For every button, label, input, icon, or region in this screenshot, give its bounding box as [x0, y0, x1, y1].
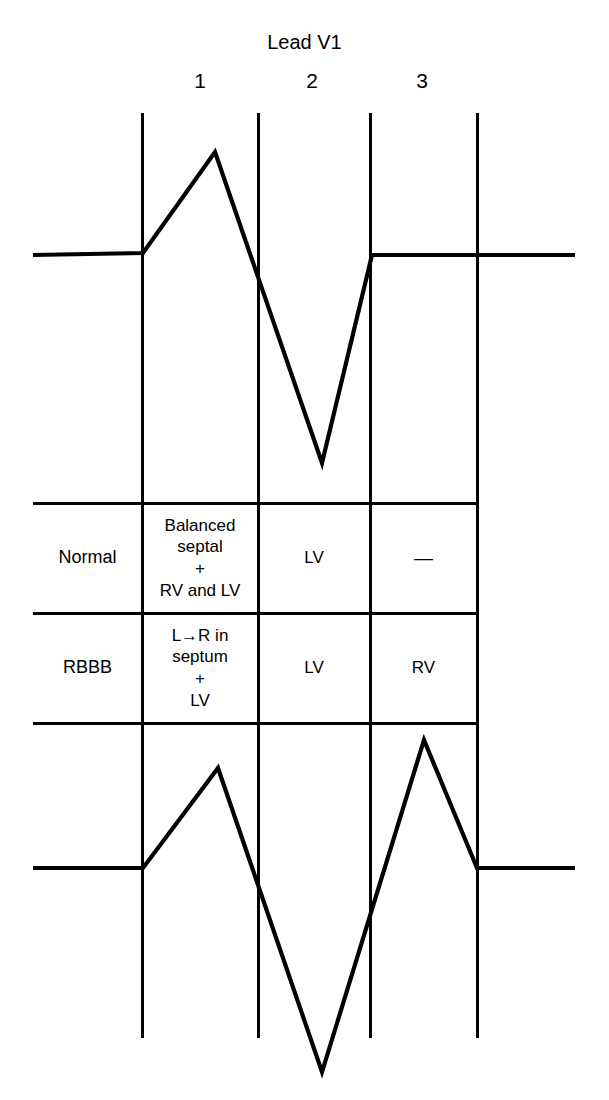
ecg-comparison-figure: Lead V1 1 2 3 Normal Balanced septal + R… — [0, 0, 609, 1100]
cell-normal-phase2-text: LV — [304, 547, 324, 569]
cell-rbbb-phase3-text: RV — [412, 657, 435, 679]
cell-rbbb-phase2-text: LV — [304, 657, 324, 679]
cell-normal-phase1-line1: Balanced — [165, 515, 236, 537]
cell-rbbb-phase1-line3: + — [195, 668, 205, 690]
cell-rbbb-phase1: L→R in septum + LV — [142, 613, 258, 723]
row-label-normal: Normal — [33, 503, 142, 613]
column-header-2: 2 — [292, 70, 332, 91]
cell-normal-phase2: LV — [258, 503, 370, 613]
cell-normal-phase1: Balanced septal + RV and LV — [142, 503, 258, 613]
cell-normal-phase1-line4: RV and LV — [160, 580, 241, 602]
cell-normal-phase3-text: — — [414, 546, 433, 570]
cell-normal-phase3: — — [370, 503, 477, 613]
column-header-3: 3 — [402, 70, 442, 91]
cell-rbbb-phase2: LV — [258, 613, 370, 723]
cell-rbbb-phase1-line1: L→R in — [172, 625, 229, 647]
cell-normal-phase1-line2: septal — [177, 536, 222, 558]
cell-rbbb-phase1-line2: septum — [172, 646, 228, 668]
ecg-trace-normal — [33, 152, 575, 463]
cell-rbbb-phase1-line4: LV — [190, 690, 210, 712]
row-label-normal-text: Normal — [58, 546, 116, 569]
cell-normal-phase1-line3: + — [195, 558, 205, 580]
ecg-trace-rbbb — [33, 740, 575, 1072]
row-label-rbbb-text: RBBB — [63, 656, 112, 679]
page-title: Lead V1 — [0, 32, 609, 52]
column-header-1: 1 — [180, 70, 220, 91]
cell-rbbb-phase3: RV — [370, 613, 477, 723]
row-label-rbbb: RBBB — [33, 613, 142, 723]
